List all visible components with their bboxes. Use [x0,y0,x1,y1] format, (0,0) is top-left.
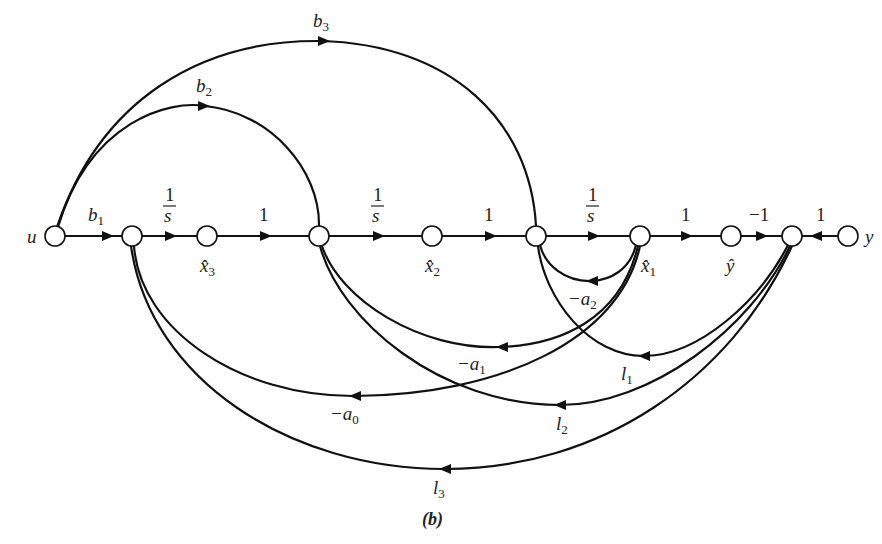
gain-one2: 1 [484,204,494,225]
arrow-s3-icon [588,231,600,241]
node-y[interactable] [838,226,858,246]
gain-s3-num: 1 [588,184,598,205]
gain-l1: l1 [621,363,633,387]
arrow-a2-icon [586,276,598,286]
figure-caption: (b) [422,509,443,530]
node-sum-2[interactable] [309,226,329,246]
arrow-b2-icon [198,101,210,111]
arrow-l2-icon [554,400,566,410]
arrow-s2-icon [373,231,385,241]
gain-b2: b2 [196,75,212,99]
edge-minus-a2 [540,245,636,281]
node-sum-4[interactable] [782,226,802,246]
gain-s1-den: s [164,205,171,226]
node-labels: u y x̂3 x̂2 x̂1 ŷ [27,226,874,279]
label-u: u [27,226,37,247]
gain-l2: l2 [556,413,568,437]
gain-s1-num: 1 [165,184,175,205]
gain-s2-den: s [372,205,379,226]
gain-minus1: −1 [749,204,769,225]
gain-one3: 1 [681,204,691,225]
label-x2: x̂2 [424,255,440,279]
label-y: y [863,226,874,247]
arrow-one2-icon [485,231,497,241]
gain-b1: b1 [88,204,104,228]
arrow-one1-icon [260,231,272,241]
node-sum-1[interactable] [122,226,142,246]
arrow-l3-icon [439,464,451,474]
arrow-one4-icon [810,231,822,241]
node-x1[interactable] [630,226,650,246]
gain-s3-den: s [587,205,594,226]
arrow-b1-icon [102,231,114,241]
signal-flow-graph: u y x̂3 x̂2 x̂1 ŷ b1 1 s 1 1 s 1 1 s 1 −… [0,0,882,544]
gain-a1: −a1 [457,353,486,377]
node-sum-3[interactable] [526,226,546,246]
gain-l3: l3 [433,477,445,501]
feedforward-arcs [57,36,536,227]
label-x1: x̂1 [640,255,656,279]
gain-s2-num: 1 [373,184,383,205]
arrow-l1-icon [638,351,650,361]
arrow-one3-icon [681,231,693,241]
label-x3: x̂3 [199,255,215,279]
gain-one1: 1 [259,204,269,225]
arrow-s1-icon [165,231,177,241]
node-x2[interactable] [422,226,442,246]
edge-labels: b1 1 s 1 1 s 1 1 s 1 −1 1 b2 b3 −a2 −a1 … [88,10,826,501]
gain-a2: −a2 [568,288,597,312]
node-yhat[interactable] [721,226,741,246]
gain-b3: b3 [313,10,329,34]
arrow-minus1-icon [756,231,768,241]
arrow-a1-icon [496,342,508,352]
node-x3[interactable] [197,226,217,246]
arrow-b3-icon [318,36,330,46]
edge-b3 [57,41,536,227]
node-u[interactable] [45,226,65,246]
gain-a0: −a0 [330,403,359,427]
arrow-a0-icon [349,391,361,401]
gain-one4: 1 [816,204,826,225]
label-yhat: ŷ [724,255,735,276]
